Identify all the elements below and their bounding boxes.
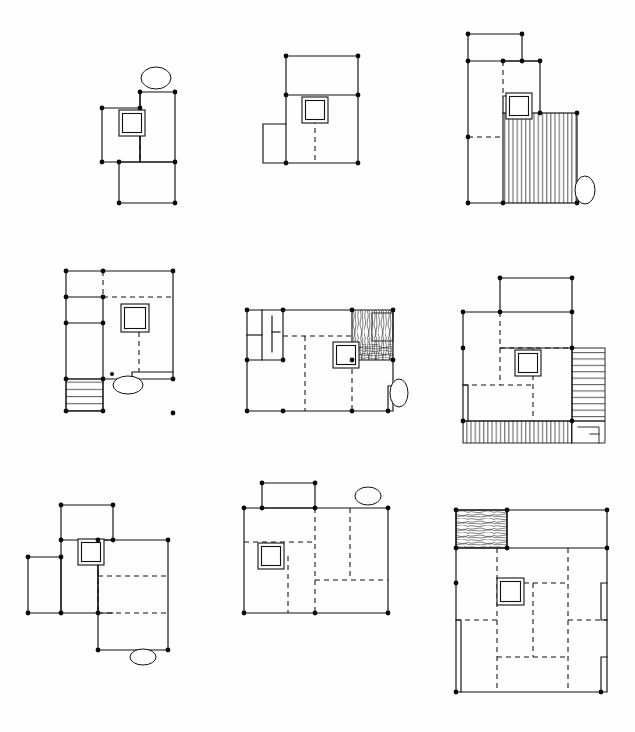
panel-7-ellipse-annotation — [130, 649, 156, 665]
panel-9-partitions — [456, 548, 607, 692]
panel-3-ellipse-annotation — [575, 176, 595, 204]
panel-3-core — [506, 93, 532, 119]
panel-4-core — [121, 304, 149, 332]
panel-2[interactable]: Plan variant 2 — [255, 45, 375, 175]
panel-3-hatch — [503, 113, 577, 203]
panel-4[interactable]: Plan variant 4 — [50, 260, 195, 425]
panel-9[interactable]: Plan variant 9 — [445, 500, 615, 700]
panel-4-ellipse-annotation — [113, 376, 143, 394]
panel-3[interactable]: Plan variant 3 — [455, 25, 615, 220]
panel-2-core — [302, 97, 328, 123]
panel-8-ellipse-annotation — [355, 487, 381, 505]
panel-7-core — [78, 539, 104, 565]
panel-6-stair-hatch-right — [572, 348, 605, 421]
panel-5-ellipse-annotation — [390, 379, 408, 407]
plan-sheet: Architectural Floor Plan Variation Study… — [0, 0, 635, 732]
panel-1-ellipse-annotation — [141, 67, 171, 89]
panel-7[interactable]: Plan variant 7 — [20, 480, 195, 665]
panel-1[interactable]: Plan variant 1 — [85, 45, 205, 220]
panel-7-hit-area[interactable] — [20, 480, 195, 665]
panel-5-core — [333, 342, 359, 368]
panel-8[interactable]: Plan variant 8 — [235, 475, 400, 625]
panel-3-partitions — [468, 61, 503, 137]
panel-4-horizontal-hatch-fill — [66, 379, 103, 411]
panel-7-partitions — [98, 552, 168, 613]
panel-5[interactable]: Plan variant 5 — [238, 300, 408, 425]
panel-6-stair-hatch-bottom — [463, 421, 572, 443]
panel-9-core — [497, 578, 524, 605]
panel-6-core — [515, 350, 541, 376]
panel-3-vertical-hatch-fill — [503, 113, 577, 203]
panel-9-hatch — [456, 510, 507, 548]
floor-plan-sheet-canvas: Architectural Floor Plan Variation Study… — [0, 0, 635, 732]
panel-9-scribble-fill — [456, 510, 507, 548]
panel-1-nodes — [100, 90, 178, 206]
panel-6[interactable]: Plan variant 6 — [450, 265, 615, 445]
panel-4-hatch — [66, 379, 103, 411]
panel-8-core — [258, 543, 284, 569]
panel-7-walls — [28, 505, 168, 650]
panel-1-core — [119, 110, 145, 136]
